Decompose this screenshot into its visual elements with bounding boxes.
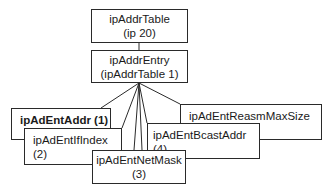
node-label: ipAddrTable	[109, 12, 170, 26]
node-oid: (ip 20)	[123, 26, 156, 40]
edge-entry-netmask-b	[139, 83, 142, 150]
edge-entry-reasm	[139, 83, 180, 104]
node-label: ipAdEntNetMask	[96, 153, 182, 167]
node-label: ipAddrEntry	[109, 53, 169, 67]
mib-tree-diagram: ipAddrTable (ip 20) ipAddrEntry (ipAddrT…	[0, 0, 325, 190]
node-oid: (ipAddrTable 1)	[101, 67, 179, 81]
node-ip-addr-table: ipAddrTable (ip 20)	[91, 9, 188, 43]
node-ip-ad-ent-net-mask: ipAdEntNetMask (3)	[92, 150, 186, 184]
edge-entry-addr	[101, 83, 139, 108]
node-oid: (3)	[132, 167, 146, 181]
node-label: ipAdEntAddr (1)	[20, 114, 108, 126]
node-ip-addr-entry: ipAddrEntry (ipAddrTable 1)	[91, 50, 188, 83]
